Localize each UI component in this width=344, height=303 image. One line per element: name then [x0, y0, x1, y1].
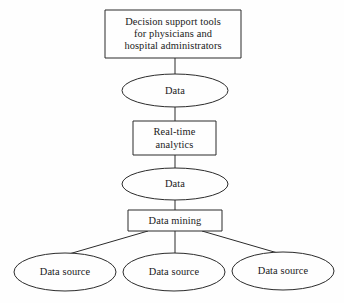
node-data-source-right	[232, 252, 334, 290]
edge-data-mining-to-data-source-left	[62, 231, 148, 256]
node-data-mining	[128, 210, 222, 231]
flowchart-graphic	[0, 0, 344, 303]
node-decision-support-tools	[105, 10, 241, 58]
node-data-source-left	[14, 253, 116, 291]
diagram-canvas: Decision support tools for physicians an…	[0, 0, 344, 303]
node-data-source-center	[123, 253, 225, 291]
node-real-time-analytics	[133, 121, 216, 155]
node-data-lower	[122, 168, 228, 200]
node-data-upper	[122, 74, 228, 107]
